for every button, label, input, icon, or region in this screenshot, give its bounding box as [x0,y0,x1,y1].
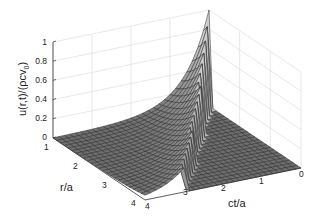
z-tick-labels: 0 0.2 0.4 0.6 0.8 1 [35,37,47,142]
z-tick-0.4: 0.4 [35,94,47,104]
ct-tick-0: 0 [299,169,304,179]
z-tick-0.2: 0.2 [35,113,47,123]
surface [53,10,301,195]
ct-tick-1: 1 [259,176,264,186]
ct-tick-2: 2 [221,183,226,193]
z-tick-0.6: 0.6 [35,75,47,85]
r-tick-2: 2 [73,161,78,171]
z-tick-0: 0 [42,132,47,142]
r-axis-label: r/a [60,181,74,193]
ct-tick-4: 4 [145,201,150,211]
ct-tick-3: 3 [183,187,188,197]
r-tick-1: 1 [44,142,49,152]
r-tick-3: 3 [102,180,107,190]
surface-plot: 0 0.2 0.4 0.6 0.8 1 1 2 3 4 4 3 2 1 0 r/… [0,0,319,221]
z-axis-label: u(r,t)/(ρcv0) [16,62,30,116]
r-tick-4: 4 [131,198,136,208]
z-tick-0.8: 0.8 [35,56,47,66]
z-tick-1: 1 [42,37,47,47]
ct-axis-label: ct/a [228,197,247,209]
